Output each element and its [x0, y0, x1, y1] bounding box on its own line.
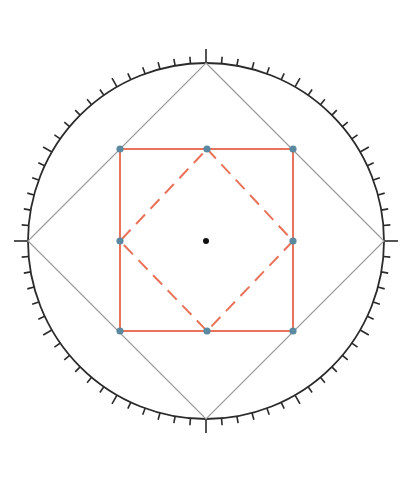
vertex-dot: [289, 237, 296, 244]
vertex-dot: [116, 327, 123, 334]
tick-mark: [378, 193, 385, 195]
tick-mark: [100, 387, 104, 393]
tick-mark: [383, 225, 390, 226]
center-point: [203, 238, 209, 244]
tick-mark: [24, 209, 31, 210]
tick-mark: [308, 89, 312, 95]
tick-mark: [22, 225, 29, 226]
tick-mark: [128, 402, 131, 408]
tick-mark: [367, 163, 373, 166]
tick-mark: [342, 122, 347, 126]
tick-mark: [281, 73, 284, 79]
tick-mark: [252, 413, 254, 420]
tick-mark: [143, 67, 145, 74]
tick-mark: [87, 377, 91, 382]
tick-mark: [143, 408, 145, 415]
tick-mark: [190, 418, 191, 425]
tick-mark: [308, 387, 312, 393]
tick-mark: [367, 316, 373, 319]
tick-mark: [24, 272, 31, 273]
tick-mark: [281, 402, 284, 408]
vertex-dot: [289, 327, 296, 334]
tick-mark: [295, 395, 300, 404]
tick-mark: [54, 135, 60, 139]
tick-mark: [332, 367, 337, 372]
tick-mark: [22, 257, 29, 258]
tick-mark: [75, 367, 80, 372]
tick-mark: [32, 302, 39, 304]
tick-mark: [222, 418, 223, 425]
tick-mark: [54, 343, 60, 347]
tick-mark: [320, 99, 324, 104]
tick-mark: [64, 355, 69, 359]
tick-mark: [295, 78, 300, 87]
tick-mark: [128, 73, 131, 79]
tick-mark: [27, 287, 34, 289]
tick-mark: [158, 62, 160, 69]
tick-mark: [87, 99, 91, 104]
tick-mark: [381, 209, 388, 210]
vertex-dot: [203, 145, 210, 152]
tick-mark: [373, 178, 380, 180]
vertex-dot: [203, 327, 210, 334]
tick-mark: [360, 330, 369, 335]
tick-mark: [342, 355, 347, 359]
tick-mark: [174, 416, 175, 423]
tick-mark: [32, 178, 39, 180]
tick-mark: [267, 67, 269, 74]
tick-mark: [320, 377, 324, 382]
tick-mark: [158, 413, 160, 420]
diagram-canvas: [0, 0, 410, 484]
vertex-dot: [116, 237, 123, 244]
tick-mark: [332, 110, 337, 115]
tick-mark: [43, 147, 52, 152]
tick-mark: [252, 62, 254, 69]
tick-mark: [360, 147, 369, 152]
tick-mark: [373, 302, 380, 304]
tick-mark: [222, 57, 223, 64]
vertex-dot: [116, 145, 123, 152]
tick-mark: [381, 272, 388, 273]
tick-mark: [190, 57, 191, 64]
tick-mark: [352, 343, 358, 347]
tick-mark: [378, 287, 385, 289]
tick-mark: [174, 59, 175, 66]
tick-mark: [237, 59, 238, 66]
tick-mark: [112, 78, 117, 87]
tick-mark: [43, 330, 52, 335]
tick-mark: [75, 110, 80, 115]
tick-mark: [112, 395, 117, 404]
tick-mark: [38, 316, 44, 319]
tick-mark: [100, 89, 104, 95]
tick-mark: [237, 416, 238, 423]
tick-mark: [352, 135, 358, 139]
vertex-dot: [289, 145, 296, 152]
tick-mark: [27, 193, 34, 195]
tick-mark: [64, 122, 69, 126]
tick-mark: [267, 408, 269, 415]
tick-mark: [383, 257, 390, 258]
tick-mark: [38, 163, 44, 166]
